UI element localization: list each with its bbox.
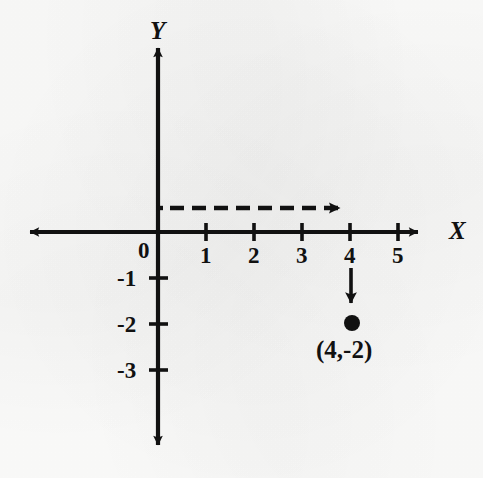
y-tick-label-minus3: -3 (117, 359, 136, 382)
origin-label: 0 (138, 239, 150, 262)
coordinate-plane-figure: Y X 0 1 2 3 4 5 -1 -2 -3 (4,-2) (0, 0, 483, 478)
x-tick-label-5: 5 (392, 244, 404, 267)
y-tick-label-minus2: -2 (117, 313, 136, 336)
coordinate-plane-svg (0, 0, 483, 478)
y-axis-label: Y (150, 18, 165, 43)
x-tick-label-3: 3 (296, 244, 308, 267)
y-tick-label-minus1: -1 (117, 267, 136, 290)
point-coordinate-label: (4,-2) (316, 337, 372, 362)
plotted-point-marker (344, 315, 360, 331)
x-axis-label: X (449, 218, 466, 243)
x-tick-label-1: 1 (200, 244, 212, 267)
x-tick-label-2: 2 (248, 244, 260, 267)
x-tick-label-4: 4 (344, 244, 356, 267)
